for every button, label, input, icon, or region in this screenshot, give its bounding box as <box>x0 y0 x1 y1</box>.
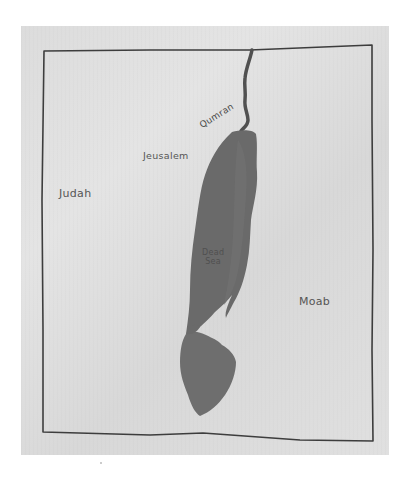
dead-sea-label-line1: Dead <box>202 248 224 257</box>
dead-sea-north-basin <box>186 130 257 334</box>
region-label-moab: Moab <box>299 295 330 308</box>
water-label-dead-sea: Dead Sea <box>202 248 224 266</box>
stray-mark <box>100 462 102 464</box>
dead-sea-label-line2: Sea <box>202 257 224 266</box>
jordan-river <box>241 50 252 131</box>
dead-sea-south-basin <box>180 332 236 416</box>
region-label-judah: Judah <box>59 187 91 200</box>
map-drawing <box>0 0 412 482</box>
place-label-jerusalem: Jeusalem <box>143 150 189 161</box>
